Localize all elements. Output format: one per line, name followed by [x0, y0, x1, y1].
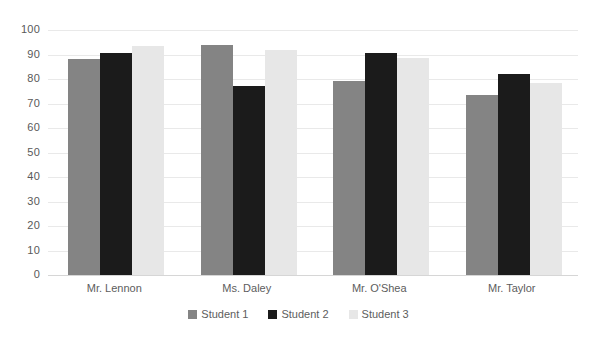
x-tick-label: Ms. Daley [181, 282, 314, 294]
legend-label: Student 1 [201, 308, 248, 320]
bar[interactable] [201, 45, 233, 275]
bar[interactable] [365, 53, 397, 275]
y-tick-label: 10 [0, 244, 40, 256]
x-tick-label: Mr. Lennon [48, 282, 181, 294]
y-tick-label: 0 [0, 268, 40, 280]
x-tick-label: Mr. Taylor [446, 282, 579, 294]
bar[interactable] [132, 46, 164, 275]
x-tick-label: Mr. O'Shea [313, 282, 446, 294]
y-tick-label: 70 [0, 97, 40, 109]
bar-group [201, 30, 297, 275]
bar[interactable] [397, 58, 429, 275]
bar[interactable] [265, 50, 297, 275]
bar[interactable] [466, 95, 498, 275]
bar[interactable] [333, 81, 365, 275]
gridline [48, 275, 578, 276]
bar[interactable] [233, 86, 265, 275]
bar-group [68, 30, 164, 275]
y-tick-label: 80 [0, 72, 40, 84]
legend-swatch-icon [349, 310, 358, 319]
y-tick-label: 30 [0, 195, 40, 207]
legend-item[interactable]: Student 3 [349, 308, 409, 320]
y-tick-label: 100 [0, 23, 40, 35]
plot-area [48, 30, 578, 275]
legend-swatch-icon [188, 310, 197, 319]
legend-label: Student 2 [281, 308, 328, 320]
y-tick-label: 60 [0, 121, 40, 133]
y-axis: 1009080706050403020100 [0, 0, 44, 339]
bar-group [333, 30, 429, 275]
bar-group [466, 30, 562, 275]
legend-item[interactable]: Student 2 [268, 308, 328, 320]
y-tick-label: 20 [0, 219, 40, 231]
y-tick-label: 50 [0, 146, 40, 158]
bar[interactable] [100, 53, 132, 275]
legend-item[interactable]: Student 1 [188, 308, 248, 320]
y-tick-label: 40 [0, 170, 40, 182]
legend-swatch-icon [268, 310, 277, 319]
bar[interactable] [530, 83, 562, 275]
bar[interactable] [498, 74, 530, 275]
y-tick-label: 90 [0, 48, 40, 60]
chart-title [150, 0, 450, 3]
bar-chart: 1009080706050403020100 Mr. LennonMs. Dal… [0, 0, 597, 339]
legend-label: Student 3 [362, 308, 409, 320]
bar[interactable] [68, 59, 100, 275]
chart-legend: Student 1Student 2Student 3 [0, 308, 597, 320]
